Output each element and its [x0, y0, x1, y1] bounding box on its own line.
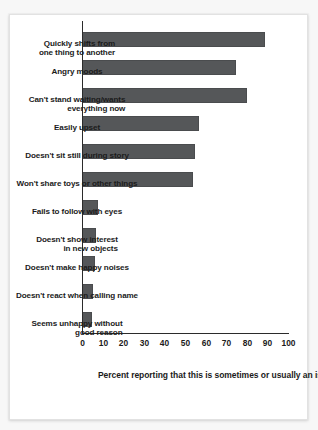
rotated-chart-stage: Quickly shifts fromone thing to anotherA…	[18, 21, 300, 413]
category-label-slot: Doesn't sit still during story	[18, 137, 80, 165]
plot-area	[82, 21, 288, 333]
bar-chart: Quickly shifts fromone thing to anotherA…	[18, 21, 300, 413]
category-label: Won't share toys or other things	[16, 179, 137, 188]
screenshot-root: Quickly shifts fromone thing to anotherA…	[0, 0, 318, 430]
axis-tick-label: 0	[75, 338, 89, 349]
value-axis-ticks: 0102030405060708090100	[82, 335, 289, 395]
category-label-slot: Doesn't show interestin new objects	[18, 221, 80, 249]
axis-tick-label: 30	[137, 338, 151, 349]
figure-page: Quickly shifts fromone thing to anotherA…	[9, 14, 308, 420]
category-label-slot: Doesn't make happy noises	[18, 249, 80, 277]
axis-tick-label: 10	[96, 338, 110, 349]
category-label-slot: Can't stand waiting/wantseverything now	[18, 81, 80, 109]
category-label: Angry moods	[51, 67, 102, 76]
category-label-slot: Quickly shifts fromone thing to another	[18, 25, 80, 53]
bar	[82, 60, 237, 75]
axis-tick-label: 100	[281, 338, 295, 349]
category-label: Fails to follow with eyes	[31, 207, 121, 216]
category-label: Easily upset	[53, 123, 99, 132]
axis-tick-label: 20	[116, 338, 130, 349]
bar-series	[82, 21, 288, 333]
axis-tick-label: 90	[260, 338, 274, 349]
axis-tick-label: 40	[157, 338, 171, 349]
category-label-slot: Won't share toys or other things	[18, 165, 80, 193]
value-axis-title: Percent reporting that this is sometimes…	[98, 367, 305, 383]
axis-tick-label: 50	[178, 338, 192, 349]
category-label-slot: Easily upset	[18, 109, 80, 137]
category-label: Doesn't react when calling name	[15, 291, 137, 300]
category-label: Doesn't make happy noises	[25, 263, 129, 272]
axis-tick-label: 60	[199, 338, 213, 349]
category-label-slot: Doesn't react when calling name	[18, 277, 80, 305]
category-label-slot: Seems unhappy withoutgood reason	[18, 305, 80, 333]
axis-tick-label: 80	[240, 338, 254, 349]
axis-tick-label: 70	[219, 338, 233, 349]
category-label-slot: Fails to follow with eyes	[18, 193, 80, 221]
category-label: Doesn't sit still during story	[25, 151, 129, 160]
category-label-slot: Angry moods	[18, 53, 80, 81]
category-axis-labels: Quickly shifts fromone thing to anotherA…	[18, 21, 80, 333]
